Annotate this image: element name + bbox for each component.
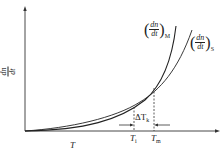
delta-text: ΔT [135, 112, 146, 122]
delta-left-arrow-icon [130, 124, 134, 127]
x-axis-label: T [70, 141, 75, 150]
curve-s-den: dt [197, 43, 203, 51]
curve-m [25, 26, 176, 131]
curve-s-label: (dndt)S [190, 34, 214, 52]
tm-label: Tm [151, 134, 161, 144]
y-axis-arrow-icon [23, 6, 26, 11]
ti-subscript: i [135, 138, 137, 144]
y-axis-label: dndt [0, 67, 17, 77]
x-axis-arrow-icon [215, 129, 220, 132]
ti-label: Ti [130, 134, 137, 144]
curve-m-den: dt [151, 30, 157, 38]
curve-s-subscript: S [211, 46, 214, 52]
diagram-canvas [0, 0, 221, 152]
delta-right-arrow-icon [154, 124, 158, 127]
curve-m-label: (dndt)M [144, 21, 170, 39]
delta-subscript: k [146, 117, 149, 123]
tm-subscript: m [156, 138, 161, 144]
curve-s [25, 30, 192, 131]
delta-tk-label: ΔTk [135, 113, 149, 123]
curve-m-subscript: M [165, 33, 170, 39]
y-label-den: dt [9, 68, 17, 74]
